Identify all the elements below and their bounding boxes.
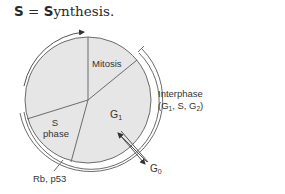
label-mitosis: Mitosis bbox=[92, 58, 122, 69]
label-regulators: Rb, p53 bbox=[33, 173, 66, 184]
cell-cycle-diagram: Mitosis G1 S phase Interphase (G1, S, G2… bbox=[0, 0, 285, 194]
label-g0: G0 bbox=[150, 163, 162, 175]
label-s-phase-1: S bbox=[52, 117, 58, 128]
label-interphase: Interphase bbox=[158, 88, 203, 99]
label-interphase-phases: (G1, S, G2) bbox=[158, 100, 203, 112]
label-s-phase-2: phase bbox=[43, 128, 69, 139]
